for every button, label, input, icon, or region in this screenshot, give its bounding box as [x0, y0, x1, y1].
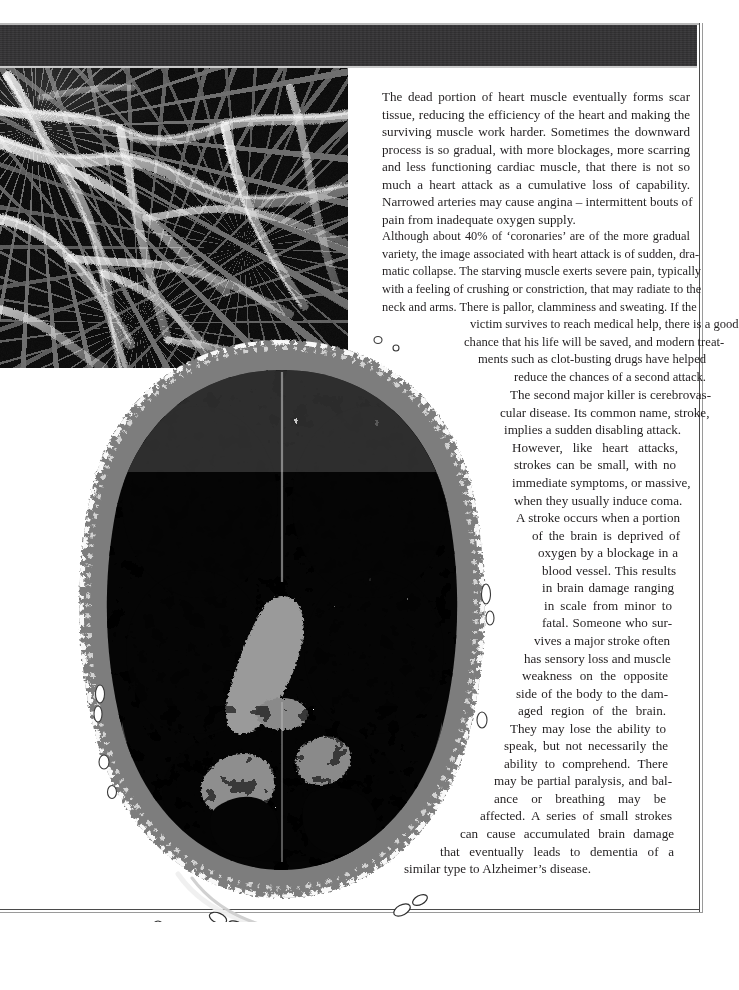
- text-line: vives a major stroke often: [514, 632, 670, 650]
- text-line: side of the body to the dam-: [496, 685, 668, 703]
- text-line: in scale from minor to: [524, 597, 672, 615]
- text-line: Although about 40% of ‘coronaries’ are o…: [362, 228, 690, 246]
- text-line: of the brain is deprived of: [512, 527, 680, 545]
- text-line: variety, the image associated with heart…: [362, 246, 690, 264]
- text-line: immediate symptoms, or massive,: [492, 474, 676, 492]
- text-line: that eventually leads to dementia of a: [420, 843, 674, 861]
- text-line: in brain damage ranging: [522, 579, 674, 597]
- text-line: They may lose the ability to: [490, 720, 666, 738]
- book-page: The dead portion of heart muscle eventua…: [0, 0, 739, 990]
- text-line: cular disease. Its common name, stroke,: [480, 404, 680, 422]
- text-line: victim survives to reach medical help, t…: [450, 316, 690, 334]
- text-line: However, like heart attacks,: [492, 439, 678, 457]
- text-line: oxygen by a blockage in a: [518, 544, 678, 562]
- body-text-column: The dead portion of heart muscle eventua…: [362, 88, 690, 908]
- header-decorative-band: [0, 25, 697, 66]
- text-line: pain from inadequate oxygen supply.: [362, 211, 690, 229]
- text-line: and less functioning cardiac muscle, tha…: [362, 158, 690, 176]
- text-line: tissue, reducing the efficiency of the h…: [362, 106, 690, 124]
- paragraph-cerebrovascular: The second major killer is cerebrovas- c…: [362, 386, 690, 877]
- text-line: has sensory loss and muscle: [504, 650, 670, 668]
- text-line: blood vessel. This results: [522, 562, 676, 580]
- text-line: process is so gradual, with more blockag…: [362, 141, 690, 159]
- text-line: affected. A series of small strokes: [460, 807, 672, 825]
- text-line: fatal. Someone who sur-: [522, 614, 672, 632]
- text-line: similar type to Alzheimer’s disease.: [384, 860, 670, 878]
- text-line: can cause accumulated brain damage: [440, 825, 674, 843]
- text-line: neck and arms. There is pallor, clammine…: [362, 299, 690, 317]
- text-line: ments such as clot-busting drugs have he…: [458, 351, 690, 369]
- page-border-right-outer: [702, 23, 703, 913]
- text-line: Narrowed arteries may cause angina – int…: [362, 193, 690, 211]
- text-line: ability to comprehend. There: [484, 755, 668, 773]
- text-line: matic collapse. The starving muscle exer…: [362, 263, 690, 281]
- text-line: weakness on the opposite: [502, 667, 668, 685]
- text-line: aged region of the brain.: [498, 702, 666, 720]
- text-line: implies a sudden disabling attack.: [484, 421, 678, 439]
- text-line: A stroke occurs when a portion: [496, 509, 680, 527]
- text-line: chance that his life will be saved, and …: [444, 334, 690, 352]
- text-line: strokes can be small, with no: [494, 456, 676, 474]
- text-line: may be partial paralysis, and bal-: [474, 772, 672, 790]
- text-line: The second major killer is cerebrovas-: [490, 386, 690, 404]
- text-line: with a feeling of crushing or constricti…: [362, 281, 690, 299]
- text-line: when they usually induce coma.: [494, 492, 674, 510]
- text-line: ance or breathing may be: [474, 790, 666, 808]
- page-border-right-inner: [699, 23, 700, 913]
- paragraph-coronaries: Although about 40% of ‘coronaries’ are o…: [362, 228, 690, 386]
- text-line: much a heart attack as a cumulative loss…: [362, 176, 690, 194]
- paragraph-scar-tissue: The dead portion of heart muscle eventua…: [362, 88, 690, 228]
- text-line: speak, but not necessarily the: [484, 737, 668, 755]
- text-line: The dead portion of heart muscle eventua…: [362, 88, 690, 106]
- text-line: surviving muscle work harder. Sometimes …: [362, 123, 690, 141]
- text-line: reduce the chances of a second attack.: [494, 369, 690, 387]
